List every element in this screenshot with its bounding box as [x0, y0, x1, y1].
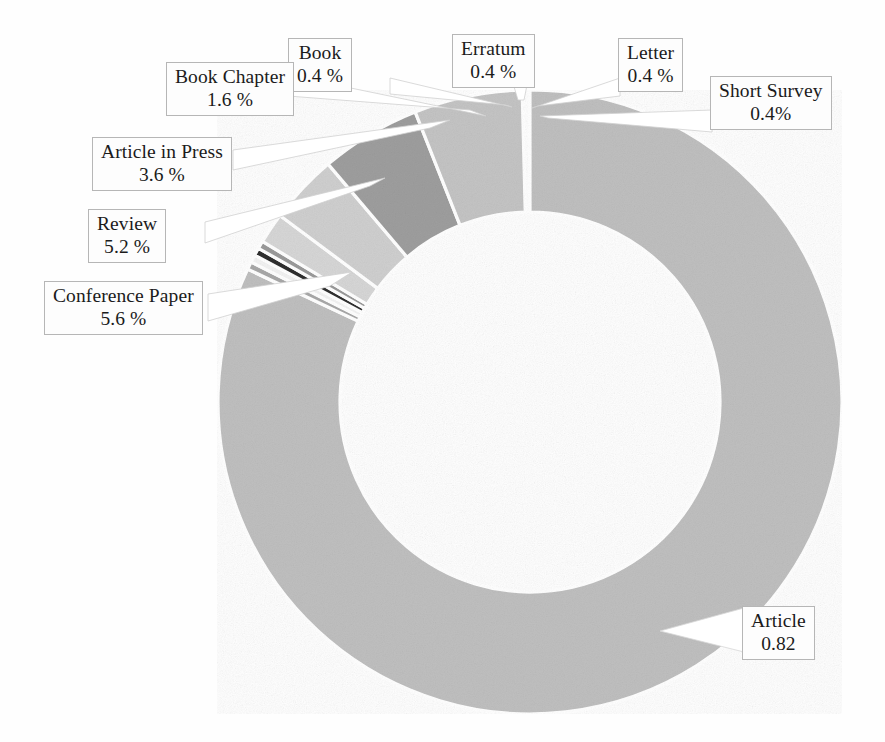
callout-article-in-press-label: Article in Press [101, 141, 223, 164]
callout-review[interactable]: Review 5.2 % [88, 209, 166, 263]
callout-book[interactable]: Book 0.4 % [288, 38, 352, 92]
callout-article-label: Article [751, 610, 806, 633]
callout-letter-label: Letter [627, 42, 674, 65]
callout-article[interactable]: Article 0.82 [742, 606, 815, 660]
callout-short-survey-value: 0.4% [719, 103, 823, 126]
callout-letter-value: 0.4 % [627, 65, 674, 88]
callout-review-label: Review [97, 213, 157, 236]
callout-review-value: 5.2 % [97, 236, 157, 259]
callout-short-survey[interactable]: Short Survey 0.4% [710, 76, 832, 130]
callout-book-label: Book [297, 42, 343, 65]
callout-conference-paper[interactable]: Conference Paper 5.6 % [44, 281, 203, 335]
callout-conference-paper-value: 5.6 % [53, 308, 194, 331]
callout-book-value: 0.4 % [297, 65, 343, 88]
callout-erratum[interactable]: Erratum 0.4 % [452, 34, 535, 88]
callout-erratum-label: Erratum [461, 38, 526, 61]
callout-book-chapter[interactable]: Book Chapter 1.6 % [166, 62, 294, 116]
callout-conference-paper-label: Conference Paper [53, 285, 194, 308]
callout-article-in-press[interactable]: Article in Press 3.6 % [92, 137, 232, 191]
callout-erratum-value: 0.4 % [461, 61, 526, 84]
donut-chart-figure: Book 0.4 % Erratum 0.4 % Letter 0.4 % Sh… [0, 0, 885, 742]
callout-short-survey-label: Short Survey [719, 80, 823, 103]
callout-article-in-press-value: 3.6 % [101, 164, 223, 187]
callout-letter[interactable]: Letter 0.4 % [618, 38, 683, 92]
callout-book-chapter-value: 1.6 % [175, 89, 285, 112]
callout-article-value: 0.82 [751, 633, 806, 656]
callout-book-chapter-label: Book Chapter [175, 66, 285, 89]
